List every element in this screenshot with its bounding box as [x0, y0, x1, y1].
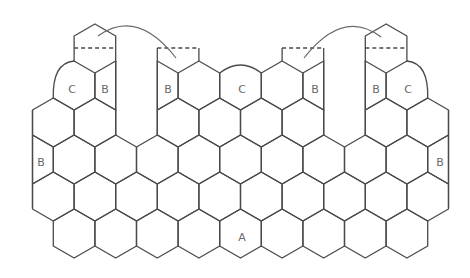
hexagon-piece-a: [386, 209, 428, 258]
hexagon-piece-a: [407, 172, 449, 221]
hexagon-piece-a: [282, 172, 324, 221]
flap-hexagon-sides: [365, 48, 407, 62]
hexagon-piece-a: [74, 172, 116, 221]
hexagon-piece-a: [53, 209, 95, 258]
fold-arrows: [98, 26, 381, 58]
hexagon-piece-a: [157, 98, 199, 147]
hexagon-piece-a: [53, 135, 95, 184]
fold-arrow-curve: [304, 26, 381, 58]
piece-label-c: C: [404, 83, 412, 96]
hexagon-piece-a: [33, 98, 75, 147]
piece-label-b: B: [164, 83, 172, 96]
piece-label-a: A: [238, 231, 246, 244]
hexagon-piece-a: [137, 209, 179, 258]
piece-label-b: B: [101, 83, 109, 96]
hexagon-piece-a: [95, 209, 137, 258]
piece-label-c: C: [238, 83, 246, 96]
hexagon-piece-a: [345, 135, 387, 184]
hexagon-piece-a: [199, 172, 241, 221]
piece-label-c: C: [68, 83, 76, 96]
hexagon-piece-a: [178, 209, 220, 258]
hexagon-piece-a: [365, 172, 407, 221]
hexagon-piece-a: [407, 98, 449, 147]
fold-flaps: [74, 48, 407, 61]
hexagon-piece-a: [261, 209, 303, 258]
piece-label-b: B: [372, 83, 380, 96]
hexagon-piece-a: [33, 172, 75, 221]
fold-arrow-curve: [98, 26, 176, 58]
flap-hexagon: [74, 24, 116, 48]
hexagon-piece-a: [282, 98, 324, 147]
hexagon-piece-a: [345, 209, 387, 258]
piece-label-b: B: [311, 83, 319, 96]
hexagon-piece-a: [241, 98, 283, 147]
hexagon-piece-a: [220, 135, 262, 184]
hexagon-piece-a: [178, 61, 220, 110]
hexagon-piece-a: [116, 172, 158, 221]
piece-label-b: B: [436, 156, 444, 169]
hexagon-piece-a: [137, 135, 179, 184]
hexagon-piece-a: [261, 61, 303, 110]
hexagon-grid: [33, 24, 449, 258]
hexagon-piece-a: [157, 172, 199, 221]
hexagon-piece-a: [365, 98, 407, 147]
hexagon-piece-a: [74, 98, 116, 147]
piece-label-b: B: [37, 156, 45, 169]
hexagon-piece-a: [178, 135, 220, 184]
hexagon-piece-a: [386, 135, 428, 184]
hexagon-piece-a: [303, 135, 345, 184]
hexagon-piece-a: [303, 209, 345, 258]
hexagon-piece-a: [95, 135, 137, 184]
hexagon-piece-a: [241, 172, 283, 221]
hexagon-piece-a: [324, 172, 366, 221]
hexagon-pattern-diagram: CBBCBBCBBA: [0, 0, 470, 278]
flap-hexagon: [365, 24, 407, 48]
hexagon-piece-a: [261, 135, 303, 184]
flap-hexagon-sides: [74, 48, 116, 62]
hexagon-piece-a: [199, 98, 241, 147]
